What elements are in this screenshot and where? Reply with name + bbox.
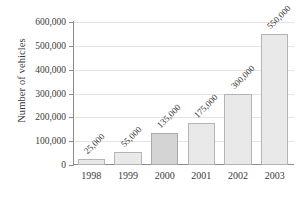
bar-slot: 175,0002001 xyxy=(183,22,220,165)
bar-slot: 25,0001998 xyxy=(73,22,110,165)
bar-value-label: 300,000 xyxy=(229,63,257,91)
bar xyxy=(224,94,252,166)
y-tick-label: 600,000 xyxy=(35,17,66,27)
bar-value-label: 135,000 xyxy=(155,102,183,130)
bar-slot: 55,0001999 xyxy=(110,22,147,165)
bar-value-label: 55,000 xyxy=(119,124,144,149)
x-axis-category-label: 2002 xyxy=(220,170,257,181)
x-axis-category-label: 1998 xyxy=(73,170,110,181)
bar-slot: 550,0002003 xyxy=(256,22,293,165)
x-axis-category-label: 2000 xyxy=(146,170,183,181)
y-axis-title: Number of vehicles xyxy=(16,6,27,156)
bar xyxy=(78,159,106,165)
bar-value-label: 175,000 xyxy=(192,93,220,121)
y-tick-label: 200,000 xyxy=(35,112,66,122)
bar-slot: 135,0002000 xyxy=(146,22,183,165)
bar xyxy=(261,34,289,165)
y-tick-label: 0 xyxy=(61,160,66,170)
bar xyxy=(114,152,142,165)
y-tick-label: 300,000 xyxy=(35,89,66,99)
x-axis-category-label: 2001 xyxy=(183,170,220,181)
x-axis-category-label: 2003 xyxy=(256,170,293,181)
y-tick-label: 500,000 xyxy=(35,41,66,51)
bar-chart: Number of vehicles 0100,000200,000300,00… xyxy=(0,0,298,203)
bar xyxy=(151,133,179,165)
bar-value-label: 25,000 xyxy=(82,131,107,156)
bars-group: 25,000199855,0001999135,0002000175,00020… xyxy=(73,22,293,165)
plot-area: 0100,000200,000300,000400,000500,000600,… xyxy=(73,22,293,165)
x-axis-category-label: 1999 xyxy=(110,170,147,181)
bar-slot: 300,0002002 xyxy=(220,22,257,165)
y-tick-mark xyxy=(69,165,73,166)
bar-value-label: 550,000 xyxy=(265,3,293,31)
bar xyxy=(188,123,216,165)
y-tick-label: 100,000 xyxy=(35,136,66,146)
y-tick-label: 400,000 xyxy=(35,65,66,75)
